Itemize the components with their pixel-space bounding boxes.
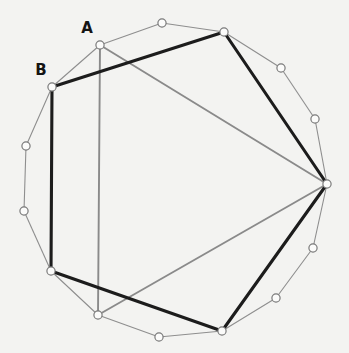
label-A: A xyxy=(81,19,93,37)
vertex-b xyxy=(48,83,56,91)
label-B: B xyxy=(35,61,46,79)
gray-chord-v5-v10 xyxy=(98,184,327,315)
gray-chord-v0-v5 xyxy=(100,45,327,184)
outer-edge-v0-v1 xyxy=(100,23,162,45)
outer-edge-v10-v11 xyxy=(51,271,98,315)
outer-edge-v12-v13 xyxy=(24,146,26,211)
vertex-v5 xyxy=(323,180,331,188)
vertex-v1 xyxy=(158,19,166,27)
outer-edge-v9-v10 xyxy=(98,315,159,337)
vertex-labels: AB xyxy=(35,19,93,79)
outer-edge-v8-v9 xyxy=(159,331,222,337)
outer-edge-v6-v7 xyxy=(276,248,313,298)
vertex-a xyxy=(96,41,104,49)
black-edge-v14-v2 xyxy=(52,32,224,87)
outer-edge-v2-v3 xyxy=(224,32,281,68)
vertex-v4 xyxy=(311,115,319,123)
vertex-v12 xyxy=(20,207,28,215)
black-heptagon-edges xyxy=(51,32,327,331)
black-edge-v2-v5 xyxy=(224,32,327,184)
outer-edge-v3-v4 xyxy=(281,68,315,119)
outer-edge-v1-v2 xyxy=(162,23,224,32)
vertex-v2 xyxy=(220,28,228,36)
gray-chord-v0-v10 xyxy=(98,45,100,315)
vertex-v9 xyxy=(155,333,163,341)
figure-container: AB xyxy=(0,0,349,353)
outer-edge-v11-v12 xyxy=(24,211,51,271)
vertex-v8 xyxy=(218,327,226,335)
black-edge-v8-v11 xyxy=(51,271,222,331)
vertex-v7 xyxy=(272,294,280,302)
outer-edge-v7-v8 xyxy=(222,298,276,331)
black-edge-v11-v14 xyxy=(51,87,52,271)
vertex-markers xyxy=(20,19,331,341)
vertex-v11 xyxy=(47,267,55,275)
vertex-v10 xyxy=(94,311,102,319)
vertex-v3 xyxy=(277,64,285,72)
vertex-v6 xyxy=(309,244,317,252)
vertex-v13 xyxy=(22,142,30,150)
polygon-diagram: AB xyxy=(0,0,349,353)
outer-edge-v13-v14 xyxy=(26,87,52,146)
black-edge-v5-v8 xyxy=(222,184,327,331)
